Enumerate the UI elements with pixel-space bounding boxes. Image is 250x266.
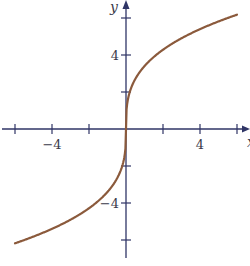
y-axis-arrow-icon	[123, 0, 130, 9]
x-axis-label: x	[247, 134, 250, 150]
x-tick-label: −4	[42, 137, 61, 152]
y-axis-label: y	[109, 0, 119, 15]
y-tick-label: 4	[111, 48, 119, 63]
chart-plot: 4−44−4yx	[0, 0, 250, 266]
x-axis-arrow-icon	[242, 126, 250, 133]
tick-labels: 4−44−4yx	[42, 0, 250, 211]
x-tick-label: 4	[196, 137, 204, 152]
